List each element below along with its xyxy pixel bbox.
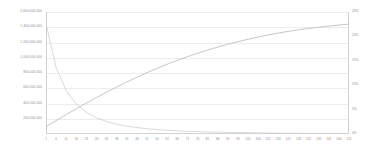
y-axis-right-tick-label: 25%: [352, 10, 358, 13]
x-axis-tick-label: 26: [95, 138, 98, 141]
chart-container: 1,600,000,0001,400,000,0001,200,000,0001…: [0, 0, 380, 156]
x-axis-tick-label: 66: [176, 138, 179, 141]
x-axis-tick-label: 46: [135, 138, 138, 141]
y-axis-right-tick-label: 5%: [352, 108, 357, 111]
x-axis-tick-label: 141: [326, 138, 331, 141]
x-axis-tick-label: 111: [266, 138, 271, 141]
x-axis-tick-label: 116: [276, 138, 281, 141]
x-axis-tick-label: 86: [216, 138, 219, 141]
y-axis-right-tick-label: 0%: [352, 132, 357, 135]
x-axis-tick-label: 31: [105, 138, 108, 141]
y-axis-right-tick-label: 20%: [352, 35, 358, 38]
y-axis-left-tick-label: 1,200,000,000: [20, 41, 42, 44]
y-axis-left-tick-label: 800,000,000: [23, 71, 42, 74]
x-axis-tick-label: 126: [296, 138, 301, 141]
x-axis-tick-label: 71: [186, 138, 189, 141]
x-axis-tick-label: 11: [65, 138, 68, 141]
x-axis-tick-label: 36: [115, 138, 118, 141]
x-axis-tick-label: 106: [256, 138, 261, 141]
series-line-cumulative: [46, 24, 349, 127]
x-axis-tick-label: 16: [75, 138, 78, 141]
x-axis-tick-label: 96: [236, 138, 239, 141]
y-axis-left-tick-label: 600,000,000: [23, 87, 42, 90]
y-axis-left-tick-label: 1,000,000,000: [20, 56, 42, 59]
x-axis-tick-label: 151: [346, 138, 351, 141]
x-axis-tick-label: 76: [196, 138, 199, 141]
y-axis-left-tick-label: 400,000,000: [23, 102, 42, 105]
x-axis-tick-label: 41: [125, 138, 128, 141]
x-axis-tick-label: 91: [226, 138, 229, 141]
x-axis-tick-label: 56: [155, 138, 158, 141]
y-axis-left: 1,600,000,0001,400,000,0001,200,000,0001…: [0, 0, 44, 156]
x-axis-tick-label: 121: [286, 138, 291, 141]
x-axis-tick-label: 101: [245, 138, 250, 141]
x-axis-tick-label: 136: [316, 138, 321, 141]
y-axis-left-tick-label: 1,600,000,000: [20, 10, 42, 13]
y-axis-right-tick-label: 15%: [352, 59, 358, 62]
x-axis-tick-label: 81: [206, 138, 209, 141]
series-layer: [46, 12, 349, 134]
y-axis-left-tick-label: 200,000,000: [23, 117, 42, 120]
x-axis-tick-label: 51: [145, 138, 148, 141]
x-axis-tick-label: 61: [165, 138, 168, 141]
y-axis-left-tick-label: 1,400,000,000: [20, 26, 42, 29]
y-axis-right-tick-label: 10%: [352, 84, 358, 87]
x-axis: 1611162126313641465156616671768186919610…: [46, 138, 349, 150]
x-axis-tick-label: 6: [55, 138, 57, 141]
x-axis-tick-label: 1: [45, 138, 47, 141]
x-axis-tick-label: 21: [85, 138, 88, 141]
x-axis-tick-label: 131: [306, 138, 311, 141]
series-line-decay: [46, 24, 349, 134]
y-axis-right: 25%20%15%10%5%0%: [352, 0, 380, 156]
x-axis-tick-label: 146: [336, 138, 341, 141]
